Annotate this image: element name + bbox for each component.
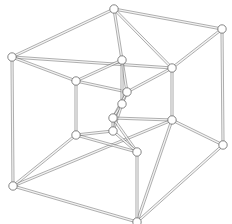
vertex-node-i6: inner-core-bottom — [109, 127, 117, 135]
vertex-node-o7: outer-bottom — [133, 218, 141, 224]
vertex-node-i5: inner-core-low — [109, 114, 117, 122]
vertex-node-o4: outer-bottom-left — [9, 182, 17, 190]
tesseract-wireframe-diagram: outer-topouter-top-rightouter-leftouter-… — [0, 0, 232, 224]
vertex-node-o5: outer-right-lower — [219, 141, 227, 149]
vertex-node-o3: outer-mid-right — [168, 64, 176, 72]
vertex-node-i7: inner-bottom-center — [133, 148, 141, 156]
figure-root: outer-topouter-top-rightouter-leftouter-… — [0, 0, 232, 224]
vertex-node-o6: outer-lower-right — [168, 116, 176, 124]
vertex-node-i2: inner-core-upper — [123, 88, 131, 96]
vertex-node-i3: inner-core-mid — [118, 100, 126, 108]
vertex-node-o1: outer-top-right — [218, 25, 226, 33]
vertex-node-o2: outer-left — [8, 53, 16, 61]
vertex-node-i1: inner-top-center — [118, 56, 126, 64]
vertex-node-o0: outer-top — [110, 5, 118, 13]
vertex-node-i4: inner-lower-left — [72, 131, 80, 139]
vertex-node-i0: inner-top-left — [72, 77, 80, 85]
